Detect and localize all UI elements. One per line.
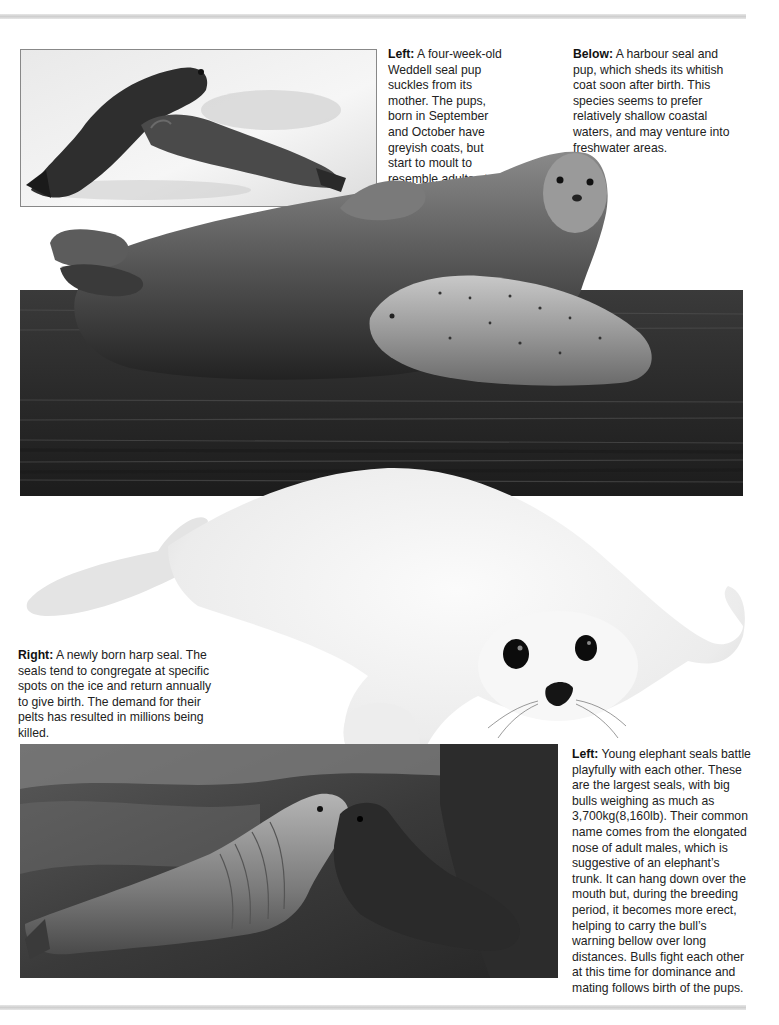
harbour-seal-cutout — [40, 148, 680, 393]
elephant-caption-text: Young elephant seals battle playfully wi… — [572, 747, 751, 995]
harbour-caption: Below: A harbour seal and pup, which she… — [573, 47, 743, 156]
elephant-caption-lead: Left: — [572, 747, 598, 761]
harbour-caption-lead: Below: — [573, 47, 613, 61]
harp-caption-lead: Right: — [18, 648, 53, 662]
top-rule — [0, 14, 746, 19]
harp-caption: Right: A newly born harp seal. The seals… — [18, 648, 218, 742]
weddell-caption-lead: Left: — [388, 47, 414, 61]
elephant-seal-photo — [20, 744, 558, 978]
bottom-rule — [0, 1005, 746, 1010]
elephant-caption: Left: Young elephant seals battle playfu… — [572, 747, 752, 997]
harbour-caption-text: A harbour seal and pup, which sheds its … — [573, 47, 730, 155]
